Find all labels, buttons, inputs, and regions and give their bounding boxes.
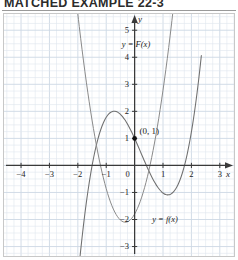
header-divider (2, 10, 236, 11)
y-tick--3: −3 (120, 242, 129, 251)
x-tick-2: 2 (189, 170, 193, 179)
y-tick-4: 4 (125, 53, 129, 62)
y-tick-3: 3 (125, 80, 129, 89)
y-tick-1: 1 (125, 134, 129, 143)
x-tick-3: 3 (218, 170, 222, 179)
y-tick--2: −2 (120, 215, 129, 224)
x-tick-1: 1 (161, 170, 165, 179)
point-label: (0, 1) (140, 127, 160, 136)
y-tick-5: 5 (125, 26, 129, 35)
graph-panel: −4−3−2−1123012345−1−2−3xy(0, 1)y = F(x)y… (3, 13, 235, 257)
x-tick--2: −2 (73, 170, 82, 179)
x-tick--3: −3 (45, 170, 54, 179)
x-tick--1: −1 (102, 170, 111, 179)
y-axis-name: y (138, 15, 142, 24)
y-tick-2: 2 (125, 107, 129, 116)
page-title: MATCHED EXAMPLE 22-3 (4, 0, 164, 10)
curve-label-F: y = F(x) (122, 40, 150, 49)
origin-label: 0 (126, 170, 130, 179)
y-tick--1: −1 (120, 188, 129, 197)
curve-label-f: y = f(x) (152, 215, 178, 224)
x-axis-name: x (226, 170, 230, 179)
axes-layer (4, 14, 234, 256)
figure-page: MATCHED EXAMPLE 22-3 −4−3−2−1123012345−1… (0, 0, 238, 260)
x-tick--4: −4 (17, 170, 26, 179)
